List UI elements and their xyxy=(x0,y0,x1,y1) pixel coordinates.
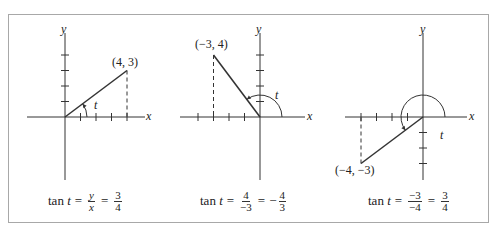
p2-caption-frac2: 43 xyxy=(279,190,287,213)
p2-angle-label: t xyxy=(275,88,278,103)
p3-point-label: (−4, −3) xyxy=(335,163,375,178)
p2-y-axis-label: y xyxy=(256,22,261,37)
p3-x-axis-label: x xyxy=(469,109,474,124)
p1-x-axis-label: x xyxy=(146,109,151,124)
p2-caption: tan t = 4−3 = − 43 xyxy=(200,186,288,216)
p3-caption-frac2: 34 xyxy=(441,190,449,213)
p3-caption-var: t xyxy=(387,193,391,209)
p1-y-axis-label: y xyxy=(61,22,66,37)
p3-caption-tan: tan xyxy=(368,193,384,209)
p1-caption-tan: tan xyxy=(48,193,64,209)
p1-caption: tan t = yx = 34 xyxy=(48,186,124,216)
p2-terminal-ray xyxy=(214,55,261,117)
p1-angle-label: t xyxy=(94,98,97,113)
p3-y-axis-label: y xyxy=(420,22,425,37)
p3-terminal-ray xyxy=(361,117,423,164)
p2-x-axis-label: x xyxy=(307,109,312,124)
p3-angle-label: t xyxy=(440,128,443,143)
p3-caption: tan t = −3−4 = 34 xyxy=(368,186,451,216)
p2-caption-frac1: 4−3 xyxy=(240,190,252,213)
p1-caption-frac1: yx xyxy=(88,190,95,213)
p1-point-label: (4, 3) xyxy=(112,55,138,70)
p2-point-label: (−3, 4) xyxy=(195,37,228,52)
p3-caption-frac1: −3−4 xyxy=(408,190,422,213)
p2-caption-tan: tan xyxy=(200,193,216,209)
p2-caption-var: t xyxy=(219,193,223,209)
p1-caption-frac2: 34 xyxy=(114,190,122,213)
p1-caption-var: t xyxy=(67,193,71,209)
